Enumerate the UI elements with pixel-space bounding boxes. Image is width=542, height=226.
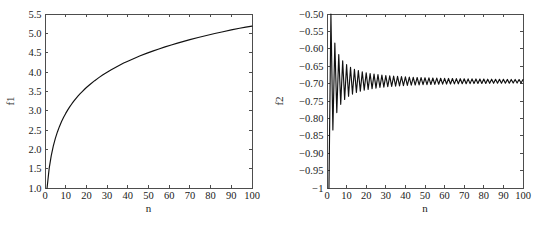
x-tick-label: 70 xyxy=(459,190,470,201)
x-tick-label: 0 xyxy=(42,190,47,201)
x-tick-label: 10 xyxy=(60,190,71,201)
y-tick-label: −0.50 xyxy=(299,9,323,20)
y-tick-label: 5.0 xyxy=(28,28,41,39)
x-tick-label: 20 xyxy=(361,190,372,201)
y-axis-label: f1 xyxy=(4,96,16,105)
axes-frame xyxy=(45,14,252,188)
y-tick-label: −0.90 xyxy=(299,148,323,159)
data-curve-f1 xyxy=(47,26,252,188)
data-curve-f2 xyxy=(329,14,523,188)
x-tick-label: 100 xyxy=(515,190,531,201)
y-tick-label: −0.65 xyxy=(299,61,323,72)
y-tick-label: −0.75 xyxy=(299,96,323,107)
y-tick-label: −0.60 xyxy=(299,43,323,54)
figure-container: 01020304050607080901001.01.52.02.53.03.5… xyxy=(0,0,542,226)
y-tick-label: 2.5 xyxy=(28,125,41,136)
axes-frame xyxy=(327,14,523,188)
x-tick-label: 80 xyxy=(479,190,490,201)
x-tick-label: 80 xyxy=(205,190,216,201)
x-axis-label: n xyxy=(146,202,152,214)
y-tick-label: 1.0 xyxy=(28,183,41,194)
y-tick-label: −1 xyxy=(312,183,323,194)
y-tick-label: 2.0 xyxy=(28,144,41,155)
x-tick-label: 0 xyxy=(324,190,329,201)
x-tick-label: 40 xyxy=(123,190,134,201)
x-tick-label: 60 xyxy=(439,190,450,201)
plot-panel-f2: 0102030405060708090100−1−0.95−0.90−0.85−… xyxy=(271,0,542,226)
x-tick-label: 30 xyxy=(102,190,113,201)
x-tick-label: 60 xyxy=(164,190,175,201)
x-tick-label: 90 xyxy=(226,190,237,201)
x-axis-label: n xyxy=(422,202,428,214)
y-tick-label: −0.95 xyxy=(299,165,323,176)
y-tick-label: 3.5 xyxy=(28,86,41,97)
x-tick-label: 100 xyxy=(244,190,260,201)
y-tick-label: 4.0 xyxy=(28,67,41,78)
y-tick-label: −0.85 xyxy=(299,130,323,141)
x-tick-label: 50 xyxy=(420,190,431,201)
plot-svg-f1: 01020304050607080901001.01.52.02.53.03.5… xyxy=(0,0,271,226)
y-tick-label: 5.5 xyxy=(28,9,41,20)
y-axis-label: f2 xyxy=(273,96,285,105)
y-tick-label: −0.80 xyxy=(299,113,323,124)
x-tick-label: 40 xyxy=(400,190,411,201)
x-tick-label: 90 xyxy=(498,190,509,201)
y-tick-label: 3.0 xyxy=(28,105,41,116)
y-tick-label: −0.55 xyxy=(299,26,323,37)
y-tick-label: 4.5 xyxy=(28,47,41,58)
x-tick-label: 10 xyxy=(341,190,352,201)
y-tick-label: 1.5 xyxy=(28,163,41,174)
y-tick-label: −0.70 xyxy=(299,78,323,89)
plot-panel-f1: 01020304050607080901001.01.52.02.53.03.5… xyxy=(0,0,271,226)
x-tick-label: 70 xyxy=(185,190,196,201)
x-tick-label: 30 xyxy=(381,190,392,201)
x-tick-label: 20 xyxy=(81,190,92,201)
x-tick-label: 50 xyxy=(143,190,154,201)
plot-svg-f2: 0102030405060708090100−1−0.95−0.90−0.85−… xyxy=(271,0,542,226)
